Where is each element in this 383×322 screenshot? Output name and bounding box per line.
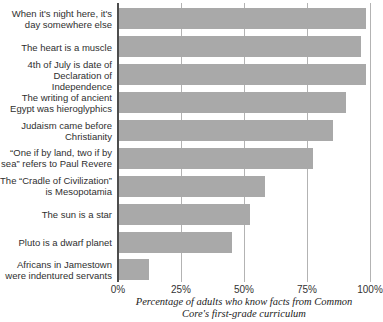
chart-row: The heart is a muscle — [0, 33, 383, 61]
x-tick-label: 0% — [111, 284, 125, 295]
bar — [119, 176, 265, 197]
x-tick-label: 50% — [234, 284, 254, 295]
category-label: The “Cradle of Civilization” is Mesopota… — [0, 175, 112, 197]
chart-row: The sun is a star — [0, 200, 383, 228]
category-label: The sun is a star — [0, 209, 112, 220]
category-label: The writing of ancient Egypt was hierogl… — [0, 92, 112, 114]
x-tick-label: 100% — [357, 284, 383, 295]
bar — [119, 259, 149, 280]
bar — [119, 232, 232, 253]
bar — [119, 92, 346, 113]
chart-row: The “Cradle of Civilization” is Mesopota… — [0, 172, 383, 200]
bar — [119, 64, 366, 85]
bar — [119, 148, 313, 169]
x-axis-caption: Percentage of adults who know facts from… — [114, 296, 374, 320]
bar — [119, 8, 366, 29]
x-axis-caption-line-1: Percentage of adults who know facts from… — [114, 296, 374, 308]
category-label: Pluto is a dwarf planet — [0, 237, 112, 248]
chart-row: Africans in Jamestown were indentured se… — [0, 256, 383, 284]
plot-area: When it's night here, it's day somewhere… — [0, 5, 383, 284]
bar — [119, 120, 333, 141]
category-label: Judaism came before Christianity — [0, 120, 112, 142]
chart-row: Pluto is a dwarf planet — [0, 228, 383, 256]
category-label: Africans in Jamestown were indentured se… — [0, 259, 112, 281]
category-label: 4th of July is date of Declaration of In… — [0, 58, 112, 91]
chart-row: Judaism came before Christianity — [0, 117, 383, 145]
category-label: “One if by land, two if by sea” refers t… — [0, 147, 112, 169]
x-tick-label: 25% — [171, 284, 191, 295]
bar-chart: When it's night here, it's day somewhere… — [0, 0, 383, 322]
chart-row: “One if by land, two if by sea” refers t… — [0, 144, 383, 172]
x-tick-label: 75% — [297, 284, 317, 295]
chart-row: The writing of ancient Egypt was hierogl… — [0, 89, 383, 117]
x-axis-caption-line-2: Core's first-grade curriculum — [114, 308, 374, 320]
category-label: When it's night here, it's day somewhere… — [0, 8, 112, 30]
chart-row: 4th of July is date of Declaration of In… — [0, 61, 383, 89]
category-label: The heart is a muscle — [0, 41, 112, 52]
bar — [119, 36, 361, 57]
chart-row: When it's night here, it's day somewhere… — [0, 5, 383, 33]
bar — [119, 204, 250, 225]
